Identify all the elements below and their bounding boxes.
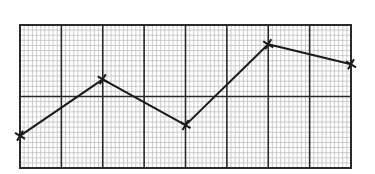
line-chart xyxy=(0,0,375,174)
